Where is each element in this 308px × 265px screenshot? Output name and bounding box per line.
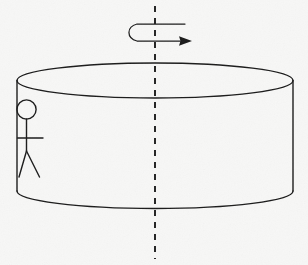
rotating-cylinder-diagram <box>0 0 308 265</box>
person-left-leg <box>19 151 27 177</box>
person-right-leg <box>27 151 40 177</box>
figure-canvas <box>0 0 308 265</box>
person-head-icon <box>17 100 36 119</box>
rotation-direction-arrow <box>129 24 192 46</box>
rotation-arrow-path <box>129 24 185 41</box>
rotation-arrow-head <box>179 36 192 46</box>
stick-figure-person <box>17 100 43 177</box>
